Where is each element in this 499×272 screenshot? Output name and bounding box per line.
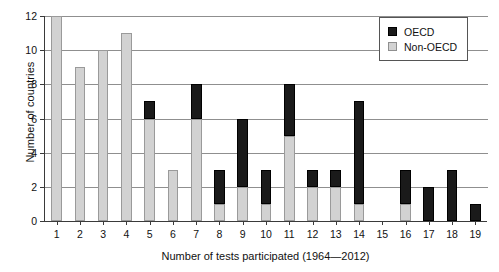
y-tick-mark xyxy=(40,50,45,51)
y-tick-mark xyxy=(40,119,45,120)
x-tick-label: 2 xyxy=(77,228,83,240)
y-tick-label: 4 xyxy=(31,147,37,159)
x-tick-label: 19 xyxy=(470,228,482,240)
bar-column xyxy=(354,101,365,221)
y-tick-label: 12 xyxy=(25,10,37,22)
bar-segment-oecd xyxy=(423,187,434,221)
bar-segment-non-oecd xyxy=(237,187,248,221)
x-tick-label: 6 xyxy=(170,228,176,240)
x-tick-label: 4 xyxy=(123,228,129,240)
bar-column xyxy=(75,67,86,221)
y-tick-label: 6 xyxy=(31,113,37,125)
x-tick-label: 18 xyxy=(446,228,458,240)
bar-column xyxy=(51,16,62,221)
x-tick-label: 10 xyxy=(260,228,272,240)
bar-column xyxy=(400,170,411,221)
bar-column xyxy=(261,170,272,221)
bar-column xyxy=(144,101,155,221)
chart-figure: Number of countries 02468101212345678910… xyxy=(0,0,499,272)
x-tick-mark xyxy=(103,221,104,225)
x-tick-mark xyxy=(452,221,453,225)
legend-label-non-oecd: Non-OECD xyxy=(404,41,457,53)
y-tick-mark xyxy=(40,187,45,188)
x-tick-mark xyxy=(150,221,151,225)
bar-segment-oecd xyxy=(144,101,155,118)
bar-column xyxy=(237,119,248,222)
gridline xyxy=(45,119,488,120)
legend-label-oecd: OECD xyxy=(404,26,434,38)
bar-column xyxy=(121,33,132,221)
bar-segment-non-oecd xyxy=(168,170,179,221)
bar-segment-non-oecd xyxy=(400,204,411,221)
x-tick-label: 11 xyxy=(284,228,295,240)
bar-column xyxy=(423,187,434,221)
chart-legend: OECD Non-OECD xyxy=(379,17,468,61)
bar-column xyxy=(307,170,318,221)
bar-column xyxy=(470,204,481,221)
x-tick-label: 7 xyxy=(193,228,199,240)
legend-swatch-oecd-icon xyxy=(388,27,397,36)
y-tick-mark xyxy=(40,16,45,17)
legend-item-non-oecd: Non-OECD xyxy=(388,39,457,54)
x-tick-mark xyxy=(313,221,314,225)
y-tick-mark xyxy=(40,221,45,222)
x-tick-mark xyxy=(126,221,127,225)
bar-segment-non-oecd xyxy=(284,136,295,221)
legend-swatch-non-oecd-icon xyxy=(388,42,397,51)
x-tick-mark xyxy=(173,221,174,225)
bar-segment-oecd xyxy=(447,170,458,221)
y-tick-label: 8 xyxy=(31,78,37,90)
bar-segment-non-oecd xyxy=(121,33,132,221)
x-tick-mark xyxy=(57,221,58,225)
x-tick-label: 5 xyxy=(147,228,153,240)
x-tick-mark xyxy=(429,221,430,225)
x-tick-mark xyxy=(266,221,267,225)
x-tick-mark xyxy=(219,221,220,225)
x-tick-mark xyxy=(406,221,407,225)
bar-column xyxy=(214,170,225,221)
x-tick-mark xyxy=(382,221,383,225)
x-axis-title: Number of tests participated (1964—2012) xyxy=(44,250,487,262)
x-tick-label: 1 xyxy=(54,228,60,240)
legend-item-oecd: OECD xyxy=(388,24,457,39)
bar-column xyxy=(98,50,109,221)
x-tick-label: 14 xyxy=(353,228,365,240)
x-tick-mark xyxy=(80,221,81,225)
bar-segment-oecd xyxy=(191,84,202,118)
x-tick-label: 3 xyxy=(100,228,106,240)
bar-segment-oecd xyxy=(284,84,295,135)
bar-segment-non-oecd xyxy=(354,204,365,221)
bar-segment-oecd xyxy=(214,170,225,204)
x-tick-mark xyxy=(475,221,476,225)
x-tick-mark xyxy=(359,221,360,225)
gridline xyxy=(45,84,488,85)
y-tick-label: 0 xyxy=(31,215,37,227)
bar-segment-non-oecd xyxy=(214,204,225,221)
bar-segment-oecd xyxy=(470,204,481,221)
x-tick-mark xyxy=(243,221,244,225)
bar-column xyxy=(330,170,341,221)
x-tick-mark xyxy=(196,221,197,225)
gridline xyxy=(45,153,488,154)
x-tick-label: 13 xyxy=(330,228,342,240)
bar-segment-oecd xyxy=(261,170,272,204)
bar-segment-non-oecd xyxy=(75,67,86,221)
x-tick-label: 12 xyxy=(307,228,319,240)
bar-segment-oecd xyxy=(400,170,411,204)
x-tick-label: 15 xyxy=(376,228,388,240)
bar-column xyxy=(447,170,458,221)
bar-column xyxy=(191,84,202,221)
y-tick-label: 10 xyxy=(25,44,37,56)
y-tick-mark xyxy=(40,153,45,154)
bar-segment-non-oecd xyxy=(98,50,109,221)
x-tick-label: 9 xyxy=(240,228,246,240)
bar-segment-oecd xyxy=(330,170,341,187)
bar-segment-oecd xyxy=(354,101,365,204)
bar-segment-non-oecd xyxy=(307,187,318,221)
bar-segment-oecd xyxy=(237,119,248,187)
y-tick-mark xyxy=(40,84,45,85)
bar-column xyxy=(284,84,295,221)
bar-segment-non-oecd xyxy=(51,16,62,221)
bar-segment-non-oecd xyxy=(330,187,341,221)
bar-segment-non-oecd xyxy=(191,119,202,222)
